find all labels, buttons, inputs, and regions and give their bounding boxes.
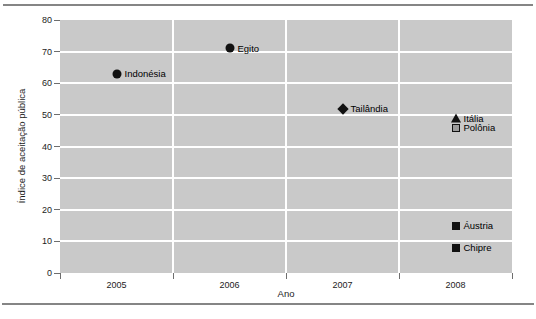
point-label: Indonésia	[125, 69, 166, 79]
bottom-rule	[2, 303, 534, 305]
point-marker-triangle	[451, 113, 461, 122]
y-axis-tick	[54, 146, 60, 147]
figure: Índice de aceitação pública IndonésiaEgi…	[0, 0, 536, 319]
y-axis-tick	[54, 209, 60, 210]
x-axis-tick	[399, 273, 400, 279]
point-label: Chipre	[464, 243, 492, 253]
x-tick-label: 2007	[323, 280, 363, 290]
y-tick-label: 80	[19, 15, 52, 25]
x-tick-label: 2005	[97, 280, 137, 290]
y-tick-label: 10	[19, 236, 52, 246]
x-axis-title: Ano	[278, 288, 295, 299]
point-marker-square	[452, 244, 460, 252]
x-axis-tick	[512, 273, 513, 279]
x-tick-label: 2008	[436, 280, 476, 290]
point-marker-diamond	[337, 103, 348, 114]
gridline-vertical	[172, 20, 174, 273]
y-tick-label: 20	[19, 205, 52, 215]
x-axis-tick	[60, 273, 61, 279]
top-rule	[3, 4, 533, 6]
x-axis-tick	[286, 273, 287, 279]
y-tick-label: 30	[19, 173, 52, 183]
gridline-vertical	[398, 20, 400, 273]
y-tick-label: 40	[19, 142, 52, 152]
y-axis-tick	[54, 83, 60, 84]
plot-area: IndonésiaEgitoTailândiaItáliaPolôniaÁust…	[60, 20, 512, 273]
y-tick-label: 70	[19, 47, 52, 57]
x-tick-label: 2006	[210, 280, 250, 290]
point-label: Polônia	[464, 123, 496, 133]
y-axis-tick	[54, 51, 60, 52]
y-tick-label: 0	[19, 268, 52, 278]
point-label: Áustria	[464, 221, 494, 231]
gridline-vertical	[285, 20, 287, 273]
point-label: Egito	[238, 44, 260, 54]
point-marker-circle	[225, 44, 234, 53]
y-axis-tick	[54, 178, 60, 179]
point-label: Tailândia	[351, 104, 389, 114]
y-tick-label: 60	[19, 78, 52, 88]
point-marker-square	[452, 222, 460, 230]
y-axis-tick	[54, 241, 60, 242]
y-axis-tick	[54, 20, 60, 21]
point-marker-circle	[112, 69, 121, 78]
y-axis-tick	[54, 114, 60, 115]
point-marker-square-outline	[452, 124, 460, 132]
y-tick-label: 50	[19, 110, 52, 120]
x-axis-tick	[173, 273, 174, 279]
